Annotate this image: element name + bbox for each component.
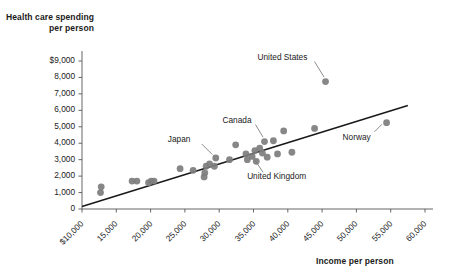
point-annotations: United StatesNorwayCanadaJapanUnited Kin…: [0, 0, 449, 277]
point-label-united-states: United States: [258, 53, 308, 62]
point-label-united-kingdom: United Kingdom: [247, 172, 306, 181]
point-label-canada: Canada: [222, 116, 251, 125]
point-label-norway: Norway: [343, 133, 371, 142]
point-label-japan: Japan: [168, 135, 191, 144]
scatter-chart: Health care spending per person Income p…: [0, 0, 449, 277]
